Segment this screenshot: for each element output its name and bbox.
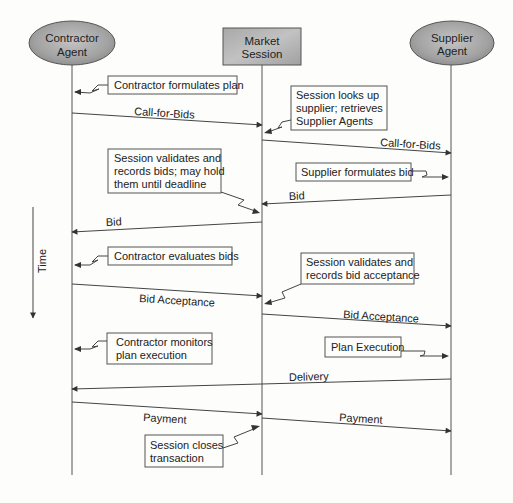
message-label: Call-for-Bids	[380, 136, 442, 152]
message-label: Bid	[289, 189, 305, 202]
note-text: Supplier Agents	[296, 115, 374, 127]
message-label: Payment	[143, 411, 187, 426]
note-text: records bids; may hold	[114, 165, 225, 177]
participant-label: Agent	[57, 46, 88, 58]
participant-label: Supplier	[431, 32, 473, 44]
note-text: Supplier formulates bid	[301, 166, 414, 178]
message-label: Bid	[106, 215, 122, 228]
note-text: Plan Execution	[331, 341, 404, 353]
note-text: Contractor formulates plan	[114, 79, 244, 91]
note-contractor-monitors: Contractor monitors plan execution	[74, 333, 213, 364]
time-label: Time	[36, 249, 48, 273]
note-text: Contractor evaluates bids	[114, 250, 239, 262]
note-session-validates-bids: Session validates and records bids; may …	[108, 149, 260, 214]
note-session-validates-acceptance: Session validates and records bid accept…	[264, 253, 420, 305]
message-call-for-bids-2: Call-for-Bids	[262, 136, 451, 153]
note-text: records bid acceptance	[306, 269, 420, 281]
note-supplier-formulates-bid: Supplier formulates bid	[296, 163, 449, 181]
message-label: Delivery	[289, 370, 330, 383]
note-text: Session validates and	[306, 256, 413, 268]
note-text: Contractor monitors	[116, 336, 213, 348]
message-bid-1: Bid	[262, 189, 451, 204]
note-contractor-evaluates-bids: Contractor evaluates bids	[74, 247, 239, 268]
note-text: Session closes	[150, 439, 224, 451]
message-bid-acceptance-1: Bid Acceptance	[72, 284, 262, 309]
note-session-closes-transaction: Session closes transaction	[145, 425, 260, 467]
message-payment-2: Payment	[262, 411, 451, 431]
message-label: Bid Acceptance	[139, 292, 215, 309]
participant-contractor-agent: Contractor Agent	[29, 21, 115, 65]
note-text: Session validates and	[114, 152, 221, 164]
note-text: supplier; retrieves	[296, 102, 383, 114]
participant-market-session: Market Session	[223, 28, 301, 65]
message-bid-acceptance-2: Bid Acceptance	[262, 308, 451, 326]
participant-label: Contractor	[45, 32, 99, 44]
time-axis: Time	[33, 207, 48, 318]
message-call-for-bids-1: Call-for-Bids	[72, 105, 262, 125]
participant-label: Agent	[437, 45, 468, 57]
note-session-looks-up-supplier: Session looks up supplier; retrieves Sup…	[264, 86, 387, 134]
note-text: them until deadline	[114, 178, 206, 190]
message-bid-2: Bid	[72, 215, 262, 232]
note-contractor-formulates-plan: Contractor formulates plan	[74, 76, 244, 95]
sequence-diagram: Contractor Agent Market Session Supplier…	[0, 0, 513, 503]
note-plan-execution: Plan Execution	[325, 337, 449, 359]
message-label: Bid Acceptance	[343, 308, 419, 325]
note-text: Session looks up	[296, 89, 379, 101]
message-payment-1: Payment	[72, 402, 262, 426]
note-text: plan execution	[116, 349, 187, 361]
message-label: Call-for-Bids	[134, 105, 196, 121]
participant-supplier-agent: Supplier Agent	[410, 21, 494, 65]
participant-label: Session	[242, 48, 283, 60]
note-text: transaction	[150, 452, 204, 464]
participant-label: Market	[244, 35, 280, 47]
